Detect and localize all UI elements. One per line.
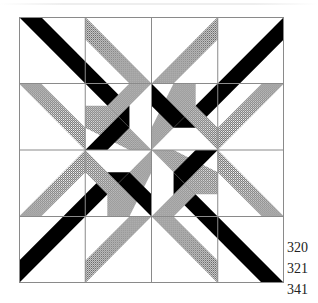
scan-edge-line xyxy=(0,3,318,5)
reference-codes: 320 321 341 xyxy=(287,237,317,300)
code-label: 341 xyxy=(287,279,317,300)
code-label: 321 xyxy=(287,258,317,279)
quilt-block-diagram xyxy=(19,17,284,283)
code-label: 320 xyxy=(287,237,317,258)
